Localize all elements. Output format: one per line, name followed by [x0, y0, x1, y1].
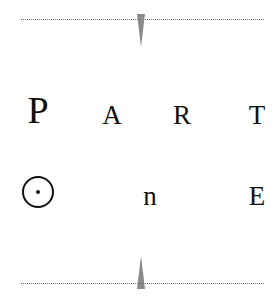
letter-o-circle-icon — [22, 176, 54, 208]
letter-r: R — [162, 102, 202, 129]
letter-e: E — [237, 183, 277, 210]
letter-n: n — [130, 183, 170, 210]
letter-a: A — [92, 102, 132, 129]
letter-p: P — [18, 91, 58, 129]
bottom-dotted-rule — [21, 283, 264, 284]
top-spike-ornament-icon — [137, 14, 145, 47]
letter-t: T — [237, 102, 277, 129]
bottom-spike-ornament-icon — [137, 256, 145, 289]
